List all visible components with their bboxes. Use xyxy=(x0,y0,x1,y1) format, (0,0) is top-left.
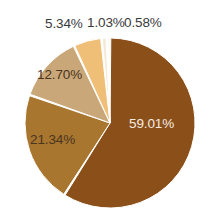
slice-label-0: 0.58% xyxy=(124,16,162,30)
pie-chart: 59.01% 21.34% 12.70% 5.34% 1.03% 0.58% xyxy=(0,0,214,213)
pie-chart-canvas xyxy=(0,0,214,213)
slice-label-21: 21.34% xyxy=(30,133,75,147)
slice-label-12: 12.70% xyxy=(37,68,82,82)
slice-label-5: 5.34% xyxy=(45,17,83,31)
slice-label-1: 1.03% xyxy=(87,16,125,30)
slice-label-59: 59.01% xyxy=(129,117,174,131)
